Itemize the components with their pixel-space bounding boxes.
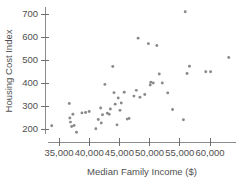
data-point bbox=[111, 65, 114, 68]
x-axis-tick-label: 35,000 bbox=[44, 147, 73, 158]
y-axis-tick-label: 200 bbox=[22, 123, 38, 134]
data-point bbox=[152, 82, 155, 85]
data-point bbox=[123, 91, 126, 94]
plot-canvas: 200300400500600700Housing Cost Index35,0… bbox=[0, 0, 247, 184]
y-axis-tick-label: 500 bbox=[22, 54, 38, 65]
x-axis-title: Median Family Income ($) bbox=[87, 166, 197, 177]
data-point bbox=[119, 109, 122, 112]
data-point bbox=[155, 44, 158, 47]
x-axis-tick-label: 55,000 bbox=[165, 147, 194, 158]
data-point bbox=[188, 65, 191, 68]
x-axis-tick-label: 40,000 bbox=[75, 147, 104, 158]
data-point bbox=[182, 118, 185, 121]
data-point bbox=[161, 82, 164, 85]
x-axis-tick-label: 45,000 bbox=[105, 147, 134, 158]
data-point bbox=[158, 73, 161, 76]
data-point bbox=[99, 107, 102, 110]
data-point bbox=[138, 96, 141, 99]
data-point bbox=[109, 108, 112, 111]
data-point bbox=[100, 122, 103, 125]
data-point bbox=[75, 131, 78, 134]
data-point bbox=[120, 102, 123, 105]
data-point bbox=[117, 97, 120, 100]
data-point bbox=[114, 103, 117, 106]
data-point bbox=[94, 127, 97, 130]
data-point bbox=[68, 117, 71, 120]
x-axis-tick-label: 50,000 bbox=[135, 147, 164, 158]
y-axis-tick-label: 300 bbox=[22, 100, 38, 111]
data-point bbox=[73, 124, 76, 127]
data-point bbox=[143, 93, 146, 96]
y-axis-title: Housing Cost Index bbox=[3, 29, 14, 112]
x-axis-tick-label: 60,000 bbox=[195, 147, 224, 158]
data-point bbox=[227, 56, 230, 59]
data-point bbox=[186, 72, 189, 75]
data-point bbox=[204, 70, 207, 73]
data-point bbox=[171, 108, 174, 111]
y-axis-tick-label: 400 bbox=[22, 77, 38, 88]
data-point bbox=[71, 113, 74, 116]
data-point bbox=[97, 118, 100, 121]
data-point bbox=[88, 110, 91, 113]
data-point bbox=[69, 121, 72, 124]
scatter-plot-figure: 200300400500600700Housing Cost Index35,0… bbox=[0, 0, 247, 184]
data-point bbox=[68, 102, 71, 105]
data-point bbox=[116, 123, 119, 126]
data-point bbox=[137, 37, 140, 40]
y-axis-tick-label: 600 bbox=[22, 31, 38, 42]
data-point bbox=[209, 70, 212, 73]
data-point bbox=[84, 111, 87, 114]
data-point bbox=[128, 117, 131, 120]
data-point bbox=[108, 113, 111, 116]
data-point bbox=[166, 91, 169, 94]
data-point bbox=[103, 83, 106, 86]
data-point bbox=[101, 113, 104, 116]
data-point bbox=[50, 124, 53, 127]
y-axis-tick-label: 700 bbox=[22, 8, 38, 19]
data-point bbox=[147, 42, 150, 45]
data-point bbox=[135, 89, 138, 92]
data-point bbox=[184, 10, 187, 13]
data-point bbox=[132, 95, 135, 98]
data-point bbox=[113, 91, 116, 94]
data-point bbox=[149, 84, 152, 87]
data-point bbox=[81, 111, 84, 114]
